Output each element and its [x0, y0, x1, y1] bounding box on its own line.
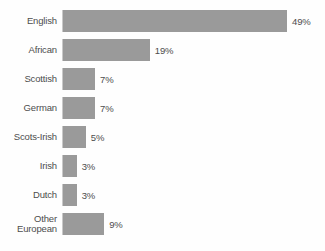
value-label: 19% [155, 45, 174, 56]
bar-row: German 7% [0, 97, 325, 119]
value-label: 9% [109, 219, 122, 230]
bar [63, 126, 86, 148]
bar-row: African 19% [0, 39, 325, 61]
bar [63, 184, 77, 206]
plot-area: English 49% African 19% Scottish 7% Germ… [0, 10, 325, 248]
bar-row: Dutch 3% [0, 184, 325, 206]
value-label: 49% [292, 16, 311, 27]
bar [63, 68, 95, 90]
bar-row: Irish 3% [0, 155, 325, 177]
value-label: 7% [100, 103, 113, 114]
value-label: 5% [91, 132, 104, 143]
bar [63, 213, 104, 235]
bar-track: 49% [62, 10, 325, 32]
bar-chart: English 49% African 19% Scottish 7% Germ… [0, 0, 325, 251]
category-label: English [0, 16, 62, 27]
bar-track: 5% [62, 126, 325, 148]
bar-row: Scottish 7% [0, 68, 325, 90]
bar [63, 39, 150, 61]
bar-track: 7% [62, 97, 325, 119]
bar-row: Other European 9% [0, 213, 325, 235]
bar [63, 97, 95, 119]
category-label: Dutch [0, 190, 62, 201]
value-label: 3% [82, 161, 95, 172]
category-label: African [0, 45, 62, 56]
bar-track: 7% [62, 68, 325, 90]
value-label: 7% [100, 74, 113, 85]
bar-track: 3% [62, 184, 325, 206]
bar-track: 3% [62, 155, 325, 177]
bar [63, 155, 77, 177]
bar-row: Scots-Irish 5% [0, 126, 325, 148]
category-label: Irish [0, 161, 62, 172]
bar-track: 9% [62, 213, 325, 235]
category-label: Other European [0, 214, 62, 235]
bar [63, 10, 287, 32]
value-label: 3% [82, 190, 95, 201]
category-label: Scots-Irish [0, 132, 62, 143]
bar-row: English 49% [0, 10, 325, 32]
bar-track: 19% [62, 39, 325, 61]
category-label: Scottish [0, 74, 62, 85]
category-label: German [0, 103, 62, 114]
